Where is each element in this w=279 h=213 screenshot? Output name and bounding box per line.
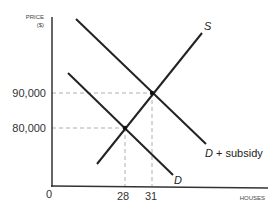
y-axis-title-line1: PRICE <box>26 14 44 20</box>
origin-label: 0 <box>46 188 52 200</box>
supply-curve <box>97 33 202 164</box>
x-axis <box>51 186 268 188</box>
demand-plus-subsidy-label: D + subsidy <box>205 147 263 159</box>
equilibrium-point-original <box>123 126 127 130</box>
demand-plus-subsidy-curve <box>76 19 206 144</box>
demand-plus-subsidy-label-d: D <box>205 147 213 159</box>
y-axis-title-line2: ($) <box>37 22 44 28</box>
x-axis-title: HOUSES <box>240 195 265 201</box>
y-tick-90000: 90,000 <box>12 87 46 99</box>
demand-plus-subsidy-label-rest: + subsidy <box>213 147 263 159</box>
demand-curve-label: D <box>174 174 182 186</box>
y-tick-80000: 80,000 <box>12 122 46 134</box>
x-tick-31: 31 <box>145 190 157 202</box>
x-tick-28: 28 <box>117 190 129 202</box>
equilibrium-point-subsidy <box>150 91 154 95</box>
supply-demand-chart: PRICE ($) 90,000 80,000 0 28 31 HOUSES S… <box>0 0 279 213</box>
supply-curve-label: S <box>204 20 212 32</box>
